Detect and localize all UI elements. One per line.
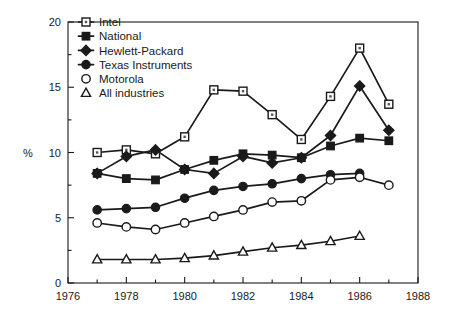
data-point-marker (82, 60, 90, 68)
data-point-marker (297, 174, 305, 182)
data-point-marker (239, 206, 247, 214)
data-point-marker (356, 134, 364, 142)
x-tick-label: 1984 (289, 290, 313, 302)
data-point-marker (356, 44, 364, 52)
data-point-marker (81, 88, 90, 96)
legend-item-texas-instruments[interactable]: Texas Instruments (79, 59, 193, 71)
data-point-marker (268, 111, 276, 119)
data-point-marker (210, 86, 218, 94)
y-tick-label: 5 (55, 212, 61, 224)
data-point-marker (327, 92, 335, 100)
data-point-marker (180, 219, 188, 227)
data-point-marker (209, 168, 219, 178)
data-point-marker (268, 180, 276, 188)
y-axis-title: % (23, 147, 33, 159)
data-point-marker (354, 81, 364, 91)
data-point-marker (239, 182, 247, 190)
data-point-marker (93, 149, 101, 157)
legend-label: Hewlett-Packard (99, 45, 183, 57)
data-point-marker (82, 32, 90, 40)
x-axis-ticks (68, 277, 418, 283)
legend-item-intel[interactable]: Intel (79, 16, 121, 28)
data-point-marker (151, 203, 159, 211)
data-point-marker (355, 231, 364, 239)
legend-label: All industries (99, 87, 164, 99)
data-point-marker (93, 206, 101, 214)
y-tick-label: 0 (55, 277, 61, 289)
data-point-marker (384, 125, 394, 135)
data-point-marker (355, 173, 363, 181)
legend-label: National (99, 30, 141, 42)
series-all-industries (93, 231, 365, 263)
series-line (97, 236, 360, 259)
data-point-marker (326, 176, 334, 184)
x-tick-label: 1982 (231, 290, 255, 302)
chart-legend: IntelNationalHewlett-PackardTexas Instru… (79, 16, 193, 99)
x-tick-label: 1980 (172, 290, 196, 302)
data-point-marker (180, 194, 188, 202)
data-point-marker (81, 45, 91, 55)
y-axis-title-text: % (23, 147, 33, 159)
legend-item-national[interactable]: National (79, 30, 142, 42)
series-texas-instruments (93, 169, 364, 214)
data-point-marker (210, 186, 218, 194)
x-tick-label: 1988 (406, 290, 430, 302)
data-point-marker (385, 100, 393, 108)
x-tick-label: 1986 (347, 290, 371, 302)
data-point-marker (297, 135, 305, 143)
data-point-marker (82, 75, 90, 83)
y-tick-label: 20 (49, 16, 61, 28)
x-axis-tick-labels: 1976197819801982198419861988 (56, 290, 430, 302)
data-point-marker (239, 87, 247, 95)
data-point-marker (152, 176, 160, 184)
y-tick-label: 10 (49, 147, 61, 159)
chart-container: 1976197819801982198419861988 05101520 % … (0, 0, 449, 320)
x-tick-label: 1976 (56, 290, 80, 302)
legend-item-hewlett-packard[interactable]: Hewlett-Packard (79, 45, 184, 57)
data-point-marker (181, 133, 189, 141)
data-point-marker (82, 18, 90, 26)
data-point-marker (385, 181, 393, 189)
data-point-marker (93, 219, 101, 227)
legend-item-all-industries[interactable]: All industries (81, 87, 164, 99)
data-point-marker (122, 204, 130, 212)
data-point-marker (327, 142, 335, 150)
data-point-marker (151, 225, 159, 233)
legend-label: Intel (99, 16, 121, 28)
data-point-marker (210, 212, 218, 220)
data-point-marker (122, 223, 130, 231)
legend-label: Texas Instruments (99, 59, 193, 71)
data-point-marker (385, 137, 393, 145)
line-chart: 1976197819801982198419861988 05101520 % … (0, 0, 449, 320)
y-tick-label: 15 (49, 81, 61, 93)
data-point-marker (123, 175, 131, 183)
data-point-marker (210, 157, 218, 165)
x-tick-label: 1978 (114, 290, 138, 302)
y-axis-tick-labels: 05101520 (49, 16, 61, 289)
legend-item-motorola[interactable]: Motorola (82, 73, 145, 85)
data-point-marker (297, 197, 305, 205)
legend-label: Motorola (99, 73, 144, 85)
data-point-marker (268, 198, 276, 206)
y-axis-ticks (68, 22, 74, 283)
